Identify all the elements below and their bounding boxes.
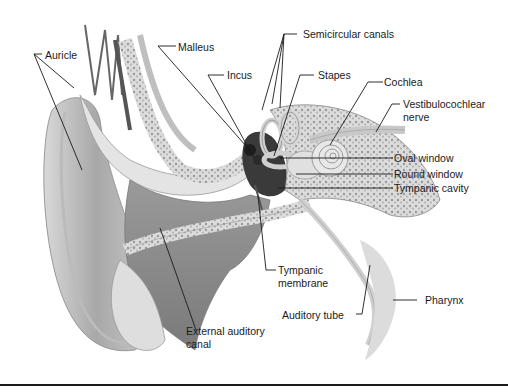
label-auricle: Auricle	[45, 49, 77, 61]
label-vestibulocochlear-nerve-line1: Vestibulocochlear	[403, 98, 485, 110]
label-external-auditory-canal-line2: canal	[186, 338, 211, 350]
label-stapes: Stapes	[318, 69, 351, 81]
label-incus: Incus	[227, 69, 252, 81]
pharynx-shape	[360, 240, 396, 360]
label-round-window: Round window	[394, 168, 463, 180]
label-semicircular-canals: Semicircular canals	[303, 28, 394, 40]
label-tympanic-membrane-line1: Tympanic	[278, 264, 323, 276]
ear-anatomy-diagram: Auricle Malleus Incus Semicircular canal…	[0, 0, 508, 392]
label-tympanic-membrane-line2: membrane	[278, 277, 328, 289]
label-pharynx: Pharynx	[425, 294, 464, 306]
label-vestibulocochlear-nerve-line2: nerve	[403, 111, 429, 123]
label-cochlea: Cochlea	[384, 76, 423, 88]
label-auditory-tube: Auditory tube	[282, 309, 344, 321]
label-tympanic-cavity: Tympanic cavity	[394, 182, 469, 194]
label-external-auditory-canal-line1: External auditory	[186, 325, 265, 337]
label-malleus: Malleus	[178, 41, 214, 53]
label-oval-window: Oval window	[394, 152, 454, 164]
bottom-divider	[0, 384, 508, 386]
